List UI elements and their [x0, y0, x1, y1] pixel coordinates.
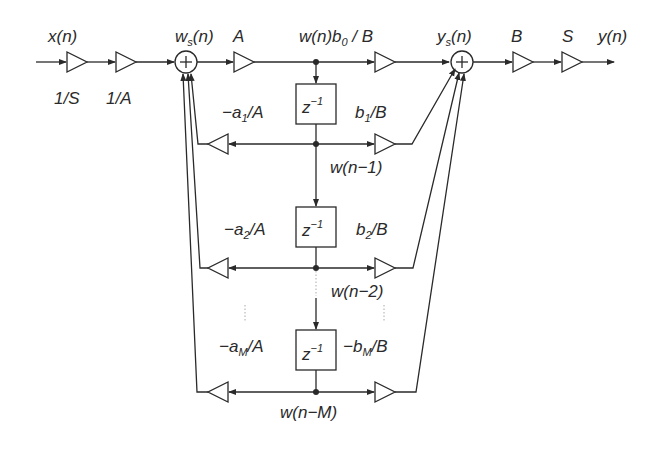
label-bM-over-B: −bM/B: [343, 337, 388, 358]
label-gain-B: B: [511, 27, 522, 46]
label-ys-n: ys(n): [436, 27, 472, 48]
label-w-n-2: w(n−2): [331, 282, 383, 301]
gain-B-amplifier: [513, 52, 533, 72]
label-1-over-A: 1/A: [106, 89, 132, 108]
label-b2-over-B: b2/B: [356, 220, 388, 241]
iir-filter-diagram: x(n) 1/S 1/A ws(n) A w(n)b0 / B ys(n) B …: [0, 0, 660, 450]
gain-S-amplifier: [562, 52, 582, 72]
label-w-n-1: w(n−1): [330, 158, 382, 177]
gain-A-amplifier: [234, 52, 254, 72]
label-1-over-S: 1/S: [54, 89, 80, 108]
gain-a1-amplifier: [208, 134, 228, 154]
label-aM-over-A: −aM/A: [219, 337, 264, 358]
label-b0-over-B: w(n)b0 / B: [299, 27, 373, 48]
label-b1-over-B: b1/B: [355, 103, 387, 124]
gain-b0-amplifier: [375, 52, 395, 72]
label-ws-n: ws(n): [175, 27, 214, 48]
gain-1-over-S-amplifier: [67, 52, 87, 72]
gain-aM-amplifier: [208, 382, 228, 402]
summing-node-1: [175, 51, 197, 73]
label-w-n-M: w(n−M): [280, 403, 337, 422]
gain-A-path: [197, 52, 449, 72]
label-gain-S: S: [562, 27, 574, 46]
gain-a2-amplifier: [208, 258, 228, 278]
gain-1-over-A-amplifier: [116, 52, 136, 72]
label-a1-over-A: −a1/A: [222, 103, 264, 124]
label-a2-over-A: −a2/A: [224, 220, 266, 241]
gain-b2-amplifier: [375, 258, 395, 278]
output-path: [473, 52, 614, 72]
gain-bM-amplifier: [375, 382, 395, 402]
label-gain-A: A: [232, 27, 244, 46]
label-y-n: y(n): [597, 27, 627, 46]
gain-b1-amplifier: [375, 134, 395, 154]
input-path: [36, 52, 174, 72]
label-x-n: x(n): [47, 27, 77, 46]
